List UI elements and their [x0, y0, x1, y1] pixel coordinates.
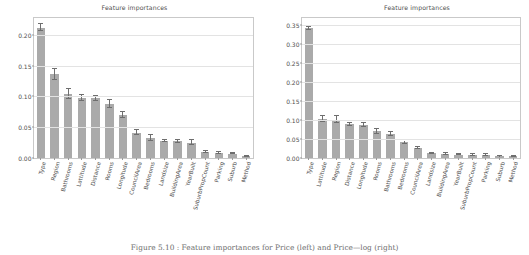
bar[interactable] — [160, 141, 168, 158]
bar[interactable] — [414, 148, 422, 158]
bar[interactable] — [105, 104, 113, 158]
error-bar-cap — [120, 117, 125, 118]
gridline — [302, 63, 520, 64]
error-bar-cap — [134, 129, 139, 130]
bar-group: SuburbPropCount — [468, 18, 476, 158]
error-bar-cap — [402, 143, 407, 144]
bar[interactable] — [345, 124, 353, 158]
error-bar-cap — [175, 139, 180, 140]
y-tick-mark — [300, 158, 302, 159]
error-bar-cap — [429, 153, 434, 154]
chart-panel-left: Feature importances TypeRegionBathroomsL… — [0, 0, 265, 255]
bar-group: Parking — [482, 18, 490, 158]
error-bar-cap — [470, 155, 475, 156]
bar-group: Region — [50, 18, 58, 158]
error-bar-cap — [230, 152, 235, 153]
x-tick-mark — [458, 158, 459, 160]
x-axis-tick-label: Bathrooms — [60, 161, 74, 192]
error-bar-cap — [347, 122, 352, 123]
bar[interactable] — [64, 94, 72, 158]
gridline — [302, 139, 520, 140]
error-bar-cap — [107, 99, 112, 100]
y-tick-mark — [32, 96, 34, 97]
x-axis-tick-label: Distance — [89, 161, 101, 187]
error-bar-cap — [306, 26, 311, 27]
error-bar-cap — [79, 94, 84, 95]
x-tick-mark — [232, 158, 233, 160]
y-tick-mark — [32, 158, 34, 159]
error-bar-cap — [120, 111, 125, 112]
bar[interactable] — [37, 28, 45, 158]
bar-group: Type — [37, 18, 45, 158]
error-bar-cap — [230, 153, 235, 154]
bar-group: Distance — [91, 18, 99, 158]
error-bar-cap — [66, 98, 71, 99]
gridline — [302, 120, 520, 121]
y-tick-mark — [300, 43, 302, 44]
bar-group: CouncilArea — [414, 18, 422, 158]
x-tick-mark — [68, 158, 69, 160]
gridline — [302, 25, 520, 26]
error-bar-cap — [244, 155, 249, 156]
plot-area-right: TypeLattitudeRegionDistanceLongitudeRoom… — [301, 17, 521, 159]
y-tick-mark — [32, 65, 34, 66]
error-bar-cap — [361, 126, 366, 127]
x-axis-tick-label: Type — [37, 161, 46, 175]
bar-series-right: TypeLattitudeRegionDistanceLongitudeRoom… — [302, 18, 520, 158]
error-bar-cap — [175, 142, 180, 143]
chart-title-left: Feature importances — [2, 4, 267, 11]
x-tick-mark — [40, 158, 41, 160]
bar[interactable] — [132, 133, 140, 158]
x-tick-mark — [191, 158, 192, 160]
error-bar-cap — [203, 152, 208, 153]
x-axis-tick-label: Distance — [343, 161, 355, 187]
y-axis-tick-label: 0.10 — [286, 116, 299, 123]
error-bar-cap — [374, 128, 379, 129]
bar-group: Parking — [215, 18, 223, 158]
bar-group: Type — [305, 18, 313, 158]
error-bar-cap — [244, 156, 249, 157]
gridline — [34, 127, 253, 128]
x-tick-mark — [513, 158, 514, 160]
bar-group: CouncilArea — [132, 18, 140, 158]
error-bar-cap — [189, 144, 194, 145]
bar-group: Suburb — [495, 18, 503, 158]
x-axis-tick-label: Bedrooms — [397, 161, 410, 190]
error-bar-cap — [216, 153, 221, 154]
x-tick-mark — [431, 158, 432, 160]
y-axis-tick-label: 0.25 — [286, 59, 299, 66]
x-axis-tick-label: CouncilArea — [128, 161, 143, 195]
x-axis-tick-label: Parking — [480, 161, 491, 183]
y-axis-tick-label: 0.30 — [286, 40, 299, 47]
error-bar-cap — [79, 100, 84, 101]
x-tick-mark — [472, 158, 473, 160]
error-bar-cap — [483, 153, 488, 154]
y-axis-tick-label: 0.10 — [18, 93, 31, 100]
y-axis-tick-label: 0.15 — [286, 97, 299, 104]
bar[interactable] — [359, 125, 367, 158]
x-axis-tick-label: Landsize — [158, 161, 170, 187]
x-tick-mark — [499, 158, 500, 160]
bar[interactable] — [400, 142, 408, 158]
error-bar-cap — [189, 139, 194, 140]
x-axis-tick-label: Method — [241, 161, 252, 183]
error-bar-cap — [470, 153, 475, 154]
x-axis-tick-label: Type — [305, 161, 314, 175]
x-tick-mark — [308, 158, 309, 160]
bar-group: BuildingArea — [441, 18, 449, 158]
y-axis-tick-label: 0.00 — [18, 155, 31, 162]
bar[interactable] — [173, 141, 181, 158]
error-bar-cap — [347, 125, 352, 126]
error-bar-cap — [66, 88, 71, 89]
x-tick-mark — [218, 158, 219, 160]
bar[interactable] — [50, 74, 58, 158]
bar[interactable] — [373, 131, 381, 158]
error-bar-cap — [52, 68, 57, 69]
bar[interactable] — [386, 134, 394, 158]
y-tick-mark — [300, 138, 302, 139]
error-bar-cap — [334, 122, 339, 123]
bar[interactable] — [119, 115, 127, 158]
x-tick-mark — [417, 158, 418, 160]
bar-group: Rooms — [105, 18, 113, 158]
x-axis-tick-label: YearBuilt — [185, 161, 197, 187]
